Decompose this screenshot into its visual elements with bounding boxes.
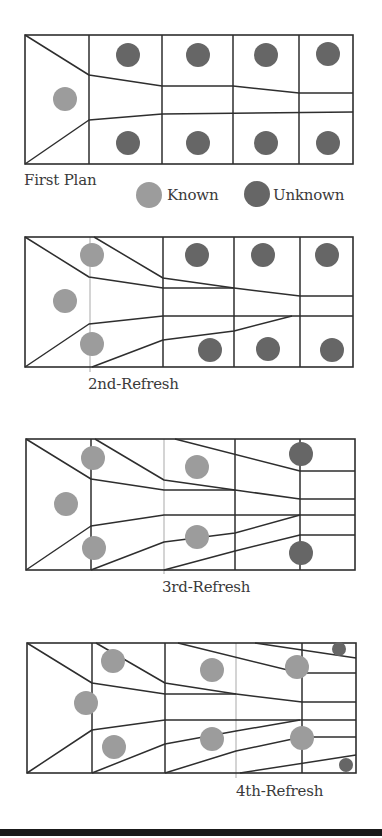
- known-node: [82, 536, 106, 560]
- unknown-node: [315, 243, 339, 267]
- unknown-node: [316, 131, 340, 155]
- unknown-node: [198, 338, 222, 362]
- known-node: [200, 727, 224, 751]
- panel-label-2nd-refresh: 2nd-Refresh: [88, 375, 179, 393]
- unknown-node: [254, 131, 278, 155]
- known-node: [53, 87, 77, 111]
- known-node: [102, 735, 126, 759]
- unknown-node: [320, 338, 344, 362]
- legend-unknown-label: Unknown: [273, 186, 344, 204]
- known-node: [290, 726, 314, 750]
- refresh-plan-diagram: [0, 0, 382, 838]
- known-node: [285, 655, 309, 679]
- known-node: [53, 289, 77, 313]
- unknown-node: [289, 541, 313, 565]
- boundary-line: [25, 237, 353, 296]
- known-node: [80, 332, 104, 356]
- unknown-node: [316, 42, 340, 66]
- boundary-line: [240, 755, 356, 773]
- known-node: [185, 525, 209, 549]
- known-node: [81, 446, 105, 470]
- legend-known-label: Known: [167, 186, 218, 204]
- legend-known-swatch: [136, 182, 162, 208]
- unknown-node: [186, 131, 210, 155]
- known-node: [80, 243, 104, 267]
- panel-label-4th-refresh: 4th-Refresh: [236, 782, 323, 800]
- unknown-node: [186, 43, 210, 67]
- unknown-node: [332, 642, 346, 656]
- known-node: [101, 649, 125, 673]
- bottom-rule: [0, 829, 382, 836]
- legend-unknown-swatch: [244, 181, 270, 207]
- boundary-line: [165, 737, 356, 773]
- unknown-node: [339, 758, 353, 772]
- known-node: [200, 658, 224, 682]
- panel-label-3rd-refresh: 3rd-Refresh: [162, 578, 250, 596]
- known-node: [185, 455, 209, 479]
- unknown-node: [256, 337, 280, 361]
- known-node: [74, 691, 98, 715]
- boundary-line: [25, 316, 353, 367]
- unknown-node: [254, 43, 278, 67]
- unknown-node: [116, 131, 140, 155]
- unknown-node: [185, 243, 209, 267]
- unknown-node: [289, 442, 313, 466]
- unknown-node: [116, 43, 140, 67]
- unknown-node: [251, 243, 275, 267]
- known-node: [54, 492, 78, 516]
- panel-label-first-plan: First Plan: [24, 171, 96, 189]
- boundary-line: [25, 35, 353, 93]
